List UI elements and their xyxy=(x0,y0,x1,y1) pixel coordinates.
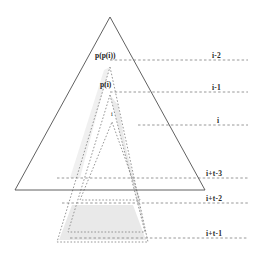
level-label-i-minus-1: i-1 xyxy=(212,83,221,92)
diagram-canvas xyxy=(0,0,255,254)
shade-bottom-trapezoid xyxy=(59,205,146,240)
label-i: i xyxy=(111,110,113,117)
label-p-p-i: p(p(i)) xyxy=(95,51,115,60)
outer-triangle-group xyxy=(15,17,205,190)
label-p-i: p(i) xyxy=(100,80,111,89)
level-label-i: i xyxy=(217,116,219,125)
shaded-regions-group xyxy=(59,67,148,242)
level-label-i-t-3: i+t-3 xyxy=(206,169,222,178)
nested-pyramid-tree-diagram: p(p(i)) p(i) i i-2 i-1 i i+t-3 i+t-2 i+t… xyxy=(0,0,255,254)
level-label-i-t-2: i+t-2 xyxy=(206,194,222,203)
outer-solid-triangle xyxy=(15,17,205,190)
level-label-i-minus-2: i-2 xyxy=(212,51,221,60)
level-label-i-t-1: i+t-1 xyxy=(206,229,222,238)
